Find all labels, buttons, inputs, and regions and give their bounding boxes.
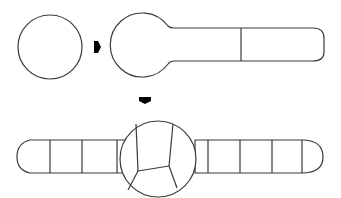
stage-2-cell (110, 13, 324, 77)
diagram-canvas (0, 0, 341, 198)
arrow-down-icon (139, 97, 151, 104)
stage-1-circle (18, 15, 82, 79)
arrow-right-icon (94, 41, 101, 53)
stage-3-right-arm (195, 140, 323, 173)
stage-2-outline (110, 13, 324, 77)
stage-1-cell (18, 15, 82, 79)
stage-3-cell (17, 121, 323, 197)
stage-3-center-body (120, 121, 196, 197)
diagram-svg (0, 0, 341, 198)
stage-3-left-arm (17, 140, 127, 173)
